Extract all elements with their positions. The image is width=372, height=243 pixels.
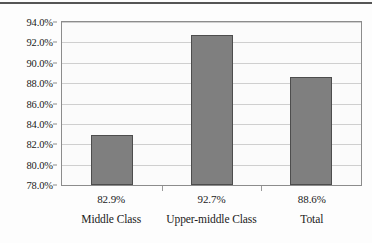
y-tick-mark	[53, 103, 57, 104]
y-tick-label: 82.0%	[26, 139, 53, 150]
y-tick-label: 78.0%	[26, 180, 53, 191]
y-tick-mark	[53, 62, 57, 63]
y-tick-mark	[53, 22, 57, 23]
y-tick-mark	[53, 123, 57, 124]
y-tick-label: 84.0%	[26, 118, 53, 129]
y-tick-label: 94.0%	[26, 17, 53, 28]
y-tick-label: 80.0%	[26, 159, 53, 170]
bars-layer	[62, 22, 361, 185]
category-label-row: Middle ClassUpper-middle ClassTotal	[61, 212, 362, 226]
x-category-label: Total	[262, 212, 362, 226]
y-tick-mark	[53, 42, 57, 43]
x-category-label: Upper-middle Class	[161, 212, 261, 226]
bar[interactable]	[91, 135, 133, 185]
bar[interactable]	[290, 77, 332, 185]
y-tick-label: 92.0%	[26, 37, 53, 48]
y-tick-mark	[53, 144, 57, 145]
gridline	[62, 185, 361, 186]
bar-value-label: 82.9%	[61, 192, 161, 206]
bar-value-label: 92.7%	[161, 192, 261, 206]
y-tick-mark	[53, 83, 57, 84]
y-tick-mark	[53, 164, 57, 165]
y-tick-label: 86.0%	[26, 98, 53, 109]
bar-chart-figure: 78.0%80.0%82.0%84.0%86.0%88.0%90.0%92.0%…	[0, 0, 372, 243]
x-tick-mark	[261, 186, 262, 191]
y-axis: 78.0%80.0%82.0%84.0%86.0%88.0%90.0%92.0%…	[0, 21, 57, 186]
y-tick-mark	[53, 185, 57, 186]
bar[interactable]	[191, 35, 233, 185]
value-label-row: 82.9%92.7%88.6%	[61, 192, 362, 206]
x-category-label: Middle Class	[61, 212, 161, 226]
y-tick-label: 90.0%	[26, 57, 53, 68]
x-tick-mark	[162, 186, 163, 191]
y-tick-label: 88.0%	[26, 78, 53, 89]
bar-value-label: 88.6%	[262, 192, 362, 206]
top-divider-rule	[0, 2, 372, 4]
